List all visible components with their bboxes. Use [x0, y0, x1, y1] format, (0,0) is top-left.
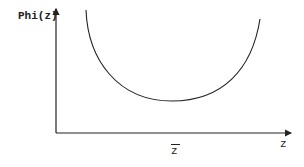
- z-bar-marker-label: z: [171, 146, 178, 157]
- x-axis-label: z: [280, 139, 287, 150]
- plot-area: [0, 0, 304, 167]
- y-axis-label: Phi(z): [18, 11, 58, 22]
- phi-curve: [86, 10, 260, 101]
- phi-z-diagram: Phi(z) z z: [0, 0, 304, 167]
